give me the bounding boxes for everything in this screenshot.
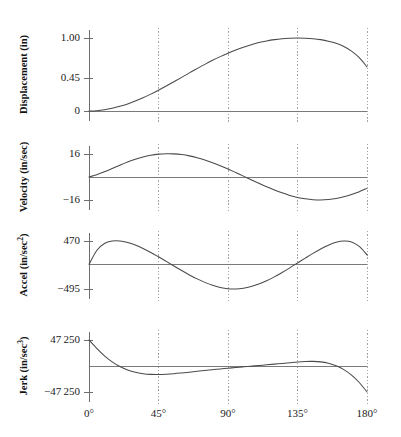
y-tick-label: −16 bbox=[63, 193, 81, 205]
x-tick-label: 0° bbox=[84, 407, 94, 419]
x-axis-tick-labels: 0°45°90°135°180° bbox=[84, 407, 377, 419]
panel-acceleration: 470−495Accel (in/sec2) bbox=[16, 231, 368, 301]
y-tick-label: 47 250 bbox=[50, 333, 80, 345]
x-tick-label: 45° bbox=[151, 407, 166, 419]
y-axis-title-acceleration: Accel (in/sec2) bbox=[16, 233, 31, 296]
y-tick-label: −495 bbox=[57, 282, 80, 294]
y-tick-label: 0 bbox=[75, 104, 81, 116]
panel-displacement: 1.000.450Displacement (in) bbox=[18, 28, 367, 123]
y-tick-label: 1.00 bbox=[61, 31, 81, 43]
y-tick-label: −47 250 bbox=[44, 385, 80, 397]
y-tick-label: 0.45 bbox=[61, 71, 81, 83]
x-tick-label: 90° bbox=[220, 407, 235, 419]
panel-jerk: 47 250−47 250Jerk (in/sec3) bbox=[16, 330, 368, 404]
panel-velocity: 16−16Velocity (in/sec) bbox=[18, 141, 367, 212]
y-tick-label: 16 bbox=[69, 147, 81, 159]
cam-motion-diagram: 1.000.450Displacement (in)16−16Velocity … bbox=[0, 0, 401, 437]
motion-diagram-svg: 1.000.450Displacement (in)16−16Velocity … bbox=[0, 0, 401, 437]
x-tick-label: 135° bbox=[287, 407, 308, 419]
x-tick-label: 180° bbox=[357, 407, 378, 419]
y-axis-title-jerk: Jerk (in/sec3) bbox=[16, 336, 31, 395]
y-tick-label: 470 bbox=[64, 234, 81, 246]
y-axis-title-displacement: Displacement (in) bbox=[18, 34, 30, 114]
panels-group: 1.000.450Displacement (in)16−16Velocity … bbox=[16, 28, 368, 404]
y-axis-title-velocity: Velocity (in/sec) bbox=[18, 141, 30, 212]
